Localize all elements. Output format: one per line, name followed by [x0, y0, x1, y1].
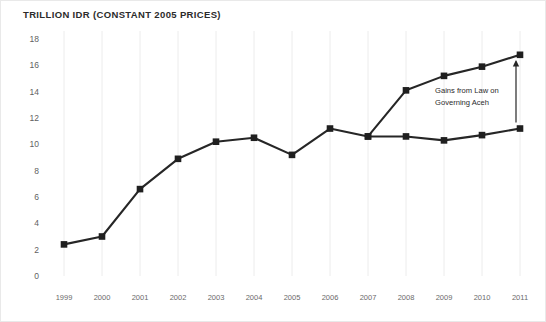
- data-point-marker: [61, 241, 68, 248]
- y-tick-label: 2: [17, 245, 39, 255]
- data-point-marker: [517, 125, 524, 132]
- y-tick-label: 10: [17, 139, 39, 149]
- x-tick-label: 2001: [132, 293, 149, 302]
- x-tick-label: 2008: [398, 293, 415, 302]
- y-tick-label: 8: [17, 166, 39, 176]
- data-point-marker: [365, 133, 372, 140]
- x-tick-label: 1999: [56, 293, 73, 302]
- data-point-marker: [175, 156, 182, 163]
- data-point-marker: [213, 138, 220, 145]
- x-tick-label: 2007: [360, 293, 377, 302]
- plot-area: [45, 31, 537, 276]
- y-tick-label: 0: [17, 271, 39, 281]
- data-point-marker: [403, 133, 410, 140]
- x-tick-label: 2000: [94, 293, 111, 302]
- annotation-arrow-head: [513, 60, 519, 67]
- chart-figure: TRILLION IDR (CONSTANT 2005 PRICES) 0246…: [0, 0, 546, 322]
- data-point-marker: [99, 233, 106, 240]
- y-tick-label: 12: [17, 113, 39, 123]
- data-point-marker: [441, 137, 448, 144]
- data-point-marker: [251, 134, 258, 141]
- data-point-marker: [479, 63, 486, 70]
- x-tick-label: 2004: [246, 293, 263, 302]
- data-point-marker: [403, 87, 410, 94]
- x-tick-label: 2006: [322, 293, 339, 302]
- y-tick-label: 14: [17, 87, 39, 97]
- y-tick-label: 4: [17, 218, 39, 228]
- y-axis: 024681012141618: [15, 31, 39, 276]
- data-point-marker: [517, 52, 524, 59]
- annotation-arrow-group: [513, 60, 519, 123]
- y-tick-label: 16: [17, 60, 39, 70]
- data-point-marker: [479, 132, 486, 139]
- x-tick-label: 2010: [474, 293, 491, 302]
- y-tick-label: 18: [17, 34, 39, 44]
- data-point-marker: [289, 152, 296, 159]
- line-chart-svg: [45, 31, 537, 276]
- x-tick-label: 2003: [208, 293, 225, 302]
- x-tick-label: 2005: [284, 293, 301, 302]
- x-tick-label: 2011: [512, 293, 528, 302]
- data-point-marker: [137, 186, 144, 193]
- gains-annotation-line-1: Gains from Law on: [435, 85, 507, 97]
- chart-title: TRILLION IDR (CONSTANT 2005 PRICES): [23, 9, 221, 20]
- data-point-marker: [327, 125, 334, 132]
- y-tick-label: 6: [17, 192, 39, 202]
- x-tick-label: 2009: [436, 293, 453, 302]
- gains-annotation-label: Gains from Law on Governing Aceh: [435, 85, 507, 108]
- x-tick-label: 2002: [170, 293, 187, 302]
- x-axis: 1999200020012002200320042005200620072008…: [1, 293, 546, 309]
- data-point-marker: [441, 73, 448, 80]
- gains-annotation-line-2: Governing Aceh: [435, 97, 507, 109]
